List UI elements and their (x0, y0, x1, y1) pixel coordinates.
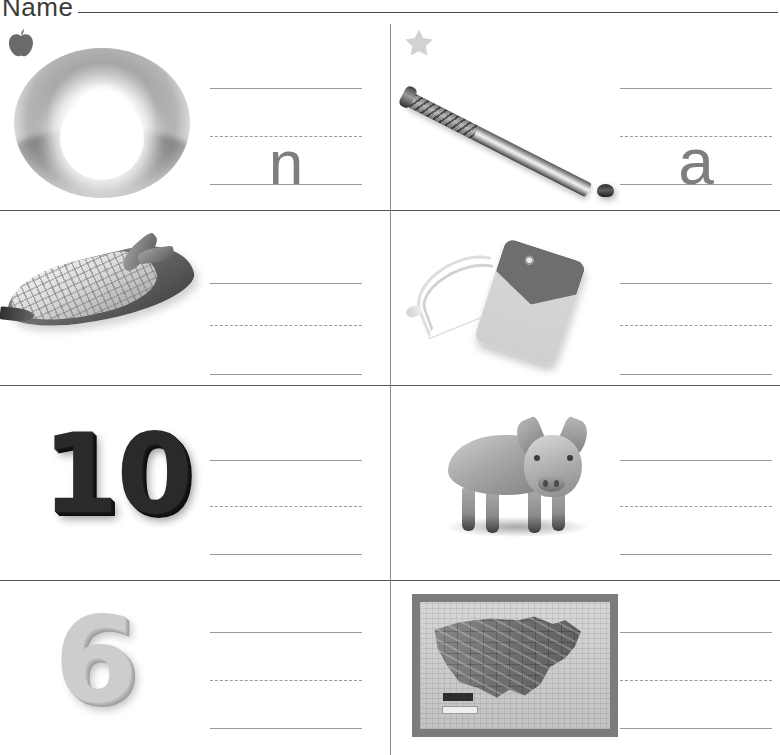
dashed-midline (210, 325, 362, 326)
handwriting-lines-5[interactable] (210, 387, 362, 580)
exercise-cell-3[interactable] (0, 212, 390, 385)
baseline (210, 728, 362, 729)
us-map-image (412, 594, 618, 737)
pig-leg-shape (462, 487, 475, 531)
top-guide-line (210, 632, 362, 633)
dashed-midline (620, 325, 772, 326)
dashed-midline (210, 506, 362, 507)
handwriting-lines-7[interactable] (210, 582, 362, 755)
pig-leg-shape (528, 489, 541, 533)
exercise-cell-8[interactable] (392, 582, 780, 755)
dashed-midline (620, 506, 772, 507)
top-guide-line (620, 632, 772, 633)
handwriting-lines-8[interactable] (620, 582, 772, 755)
baseline (210, 554, 362, 555)
baseline (210, 374, 362, 375)
handwriting-lines-2[interactable]: a (620, 24, 772, 210)
trace-letter-n: n (210, 132, 362, 194)
top-guide-line (620, 88, 772, 89)
corn-image (0, 226, 200, 354)
pig-leg-shape (486, 489, 499, 533)
pig-eye-shape (534, 455, 540, 461)
handwriting-lines-3[interactable] (210, 212, 362, 385)
picture-sunrise (0, 24, 200, 210)
numeral-six-image: 6 (54, 600, 136, 720)
handwriting-lines-6[interactable] (620, 387, 772, 580)
baseline (620, 374, 772, 375)
column-divider (390, 24, 391, 755)
exercise-cell-7[interactable]: 6 (0, 582, 390, 755)
bat-tip-shape (597, 184, 614, 197)
top-guide-line (620, 283, 772, 284)
trace-letter-a: a (620, 130, 772, 194)
exercise-cell-4[interactable] (392, 212, 780, 385)
dashed-midline (210, 680, 362, 681)
exercise-cell-6[interactable] (392, 387, 780, 580)
tag-top-shape (489, 238, 586, 317)
worksheet-page: Name n (0, 0, 780, 755)
dashed-midline (620, 680, 772, 681)
exercise-cell-1[interactable]: n (0, 24, 390, 210)
top-guide-line (210, 283, 362, 284)
baseball-bat-image (400, 42, 615, 162)
sunrise-image (14, 48, 190, 198)
map-canvas-shape (420, 602, 610, 729)
pig-eye-shape (567, 455, 573, 461)
sun-disc-shape (60, 96, 144, 180)
picture-numeral-ten: 10 (0, 387, 200, 580)
picture-corn (0, 212, 200, 385)
top-guide-line (210, 88, 362, 89)
picture-numeral-six: 6 (0, 582, 200, 755)
exercise-cell-5[interactable]: 10 (0, 387, 390, 580)
picture-baseball-bat (392, 24, 622, 210)
baseline (620, 728, 772, 729)
picture-us-map (392, 582, 622, 755)
pig-nostril-shape (543, 480, 548, 487)
map-legend-shape (443, 707, 477, 713)
name-header: Name (0, 0, 780, 22)
map-legend-shape (443, 693, 473, 701)
handwriting-lines-1[interactable]: n (210, 24, 362, 210)
pig-image (432, 409, 602, 539)
handwriting-lines-4[interactable] (620, 212, 772, 385)
pig-snout-shape (538, 475, 565, 492)
name-input-line[interactable] (78, 12, 778, 13)
pig-nostril-shape (554, 480, 559, 487)
baseline (620, 554, 772, 555)
top-guide-line (210, 460, 362, 461)
top-guide-line (620, 460, 772, 461)
price-tag-image (404, 232, 604, 367)
name-label: Name (2, 0, 73, 23)
exercise-cell-2[interactable]: a (392, 24, 780, 210)
picture-price-tag (392, 212, 622, 385)
picture-pig (392, 387, 622, 580)
numeral-ten-image: 10 (42, 419, 191, 529)
